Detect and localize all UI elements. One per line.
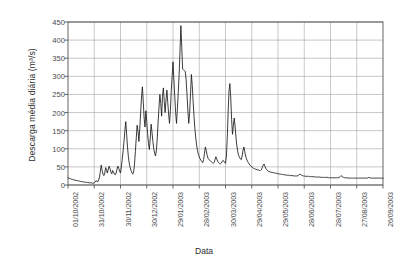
x-tick-label: 27/08/2003 <box>360 192 369 227</box>
chart-figure: Descarga média diária (m³/s) 05010015020… <box>0 0 408 268</box>
x-tick-label: 28/07/2003 <box>334 192 343 227</box>
x-tick-label: 30/03/2003 <box>229 192 238 227</box>
x-tick-label: 26/09/2003 <box>386 192 395 227</box>
axis-ticks <box>65 22 384 189</box>
x-axis-tick-labels: 01/10/200231/10/200230/11/200230/12/2002… <box>0 190 408 246</box>
x-tick-label: 31/10/2002 <box>97 192 106 227</box>
x-tick-label: 30/12/2002 <box>150 192 159 227</box>
x-tick-label: 28/02/2003 <box>202 192 211 227</box>
x-tick-label: 29/01/2003 <box>176 192 185 227</box>
x-axis-title: Data <box>0 246 408 256</box>
x-tick-label: 30/11/2002 <box>124 192 133 226</box>
x-tick-label: 28/06/2003 <box>307 192 316 227</box>
x-tick-label: 29/04/2003 <box>255 192 264 227</box>
x-tick-label: 29/05/2003 <box>281 192 290 227</box>
x-tick-label: 01/10/2002 <box>71 192 80 227</box>
